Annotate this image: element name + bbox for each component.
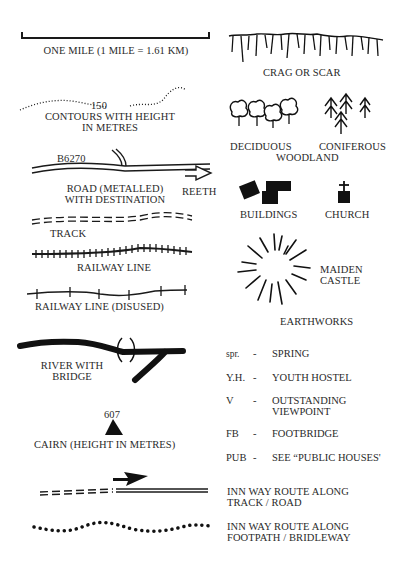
railway-disused-icon [25, 285, 190, 299]
church-icon [336, 181, 352, 205]
earthworks-name: MAIDEN CASTLE [320, 264, 363, 286]
buildings-label: BUILDINGS [240, 209, 297, 220]
earthworks-icon [234, 232, 314, 307]
abbreviation-meaning: SPRING [272, 348, 309, 360]
abbreviation-code: FB [226, 428, 239, 440]
abbreviation-code: PUB [226, 452, 246, 464]
inn-way-track-label-line1: INN WAY ROUTE ALONG [227, 486, 349, 497]
inn-way-track-label: INN WAY ROUTE ALONG TRACK / ROAD [227, 486, 349, 508]
abbreviation-meaning-line2: VIEWPOINT [272, 406, 346, 417]
inn-way-footpath-label: INN WAY ROUTE ALONG FOOTPATH / BRIDLEWAY [227, 521, 351, 543]
scale-label: ONE MILE (1 MILE = 1.61 KM) [20, 45, 212, 56]
road-label-line2: WITH DESTINATION [50, 194, 180, 205]
road-label-line1: ROAD (METALLED) [50, 183, 180, 194]
earthworks-name-line2: CASTLE [320, 275, 363, 286]
abbreviation-meaning-line1: OUTSTANDING [272, 395, 346, 406]
scale-bar-icon [20, 30, 210, 42]
inn-way-footpath-label-line2: FOOTPATH / BRIDLEWAY [227, 532, 351, 543]
abbreviation-dash: - [253, 372, 257, 384]
abbreviation-meaning: SEE “PUBLIC HOUSES' [272, 452, 381, 464]
earthworks-name-line1: MAIDEN [320, 264, 363, 275]
contour-label: CONTOURS WITH HEIGHT IN METRES [30, 111, 190, 133]
contour-label-line2: IN METRES [30, 122, 190, 133]
crag-label: CRAG OR SCAR [263, 67, 341, 78]
abbreviation-meaning: FOOTBRIDGE [272, 428, 339, 440]
river-label: RIVER WITH BRIDGE [32, 360, 112, 382]
coniferous-trees-icon [323, 94, 373, 136]
road-label: ROAD (METALLED) WITH DESTINATION [50, 183, 180, 205]
track-icon [30, 208, 195, 228]
buildings-icon [238, 179, 293, 207]
road-destination: REETH [182, 186, 216, 197]
abbreviation-dash: - [253, 428, 257, 440]
contour-height-value: 150 [91, 100, 107, 111]
abbreviation-dash: - [253, 348, 257, 360]
deciduous-trees-icon [228, 98, 298, 128]
woodland-label: WOODLAND [276, 152, 339, 163]
abbreviation-code: Y.H. [226, 372, 245, 384]
railway-disused-label: RAILWAY LINE (DISUSED) [35, 301, 164, 312]
inn-way-track-icon [38, 472, 218, 502]
destination-arrow-icon [184, 165, 214, 181]
inn-way-track-label-line2: TRACK / ROAD [227, 497, 349, 508]
abbreviation-meaning: YOUTH HOSTEL [272, 372, 352, 384]
abbreviation-meaning: OUTSTANDING VIEWPOINT [272, 395, 346, 417]
railway-icon [30, 245, 195, 259]
river-label-line1: RIVER WITH [32, 360, 112, 371]
inn-way-footpath-icon [32, 517, 212, 537]
inn-way-footpath-label-line1: INN WAY ROUTE ALONG [227, 521, 351, 532]
abbreviation-dash: - [253, 452, 257, 464]
cairn-label: CAIRN (HEIGHT IN METRES) [34, 439, 175, 450]
river-label-line2: BRIDGE [32, 371, 112, 382]
contour-label-line1: CONTOURS WITH HEIGHT [30, 111, 190, 122]
track-label: TRACK [50, 228, 86, 239]
crag-icon [227, 32, 387, 66]
abbreviation-code: spr. [226, 348, 239, 360]
earthworks-label: EARTHWORKS [280, 316, 353, 327]
abbreviation-dash: - [253, 395, 257, 407]
cairn-triangle-icon [104, 418, 124, 436]
coniferous-label: CONIFEROUS [319, 141, 386, 152]
deciduous-label: DECIDUOUS [230, 141, 292, 152]
abbreviation-code: V [226, 395, 234, 407]
church-label: CHURCH [325, 209, 369, 220]
railway-label: RAILWAY LINE [77, 262, 151, 273]
